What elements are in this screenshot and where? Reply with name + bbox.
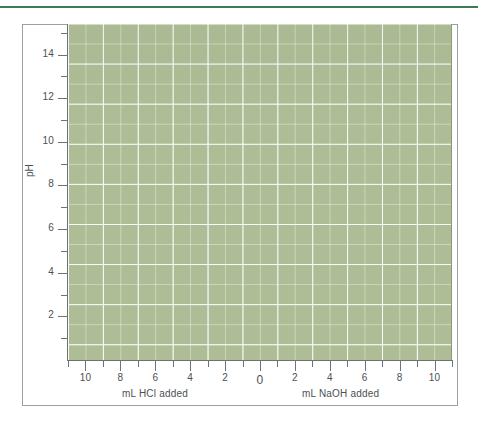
- y-axis-tick-major: [58, 55, 67, 56]
- x-axis-tick-label: 6: [350, 372, 380, 383]
- x-axis-tick-minor: [347, 361, 348, 367]
- x-axis-tick-major: [120, 361, 121, 371]
- x-axis-tick-label: 2: [280, 372, 310, 383]
- x-axis-tick-minor: [103, 361, 104, 367]
- y-axis-tick-major: [58, 316, 67, 317]
- x-axis-tick-label: 4: [315, 372, 345, 383]
- x-axis-tick-major: [225, 361, 226, 371]
- y-axis-tick-minor: [61, 295, 67, 296]
- y-axis-title: pH: [24, 164, 35, 177]
- y-axis-tick-major: [58, 98, 67, 99]
- y-axis-tick-minor: [61, 120, 67, 121]
- y-axis-tick-minor: [61, 207, 67, 208]
- y-axis-tick-minor: [61, 33, 67, 34]
- x-axis-tick-minor: [452, 361, 453, 367]
- x-axis-tick-label: 6: [140, 372, 170, 383]
- x-axis-tick-major: [295, 361, 296, 371]
- x-axis-tick-major: [330, 361, 331, 371]
- x-axis-tick-minor: [208, 361, 209, 367]
- titration-graph-figure: 2468101214 1086420246810 pH mL HCl added…: [0, 0, 478, 426]
- y-axis-tick-minor: [61, 251, 67, 252]
- x-axis-tick-minor: [312, 361, 313, 367]
- plot-paper-texture: [68, 24, 451, 360]
- y-axis-tick-label: 14: [20, 48, 54, 59]
- x-axis-tick-major: [85, 361, 86, 371]
- x-axis-tick-major: [190, 361, 191, 371]
- x-axis-tick-major: [260, 361, 261, 371]
- x-axis-tick-minor: [68, 361, 69, 367]
- x-axis-tick-minor: [243, 361, 244, 367]
- x-axis-tick-minor: [173, 361, 174, 367]
- plot-grid-area[interactable]: [68, 24, 452, 360]
- y-axis-spine: [67, 24, 68, 361]
- y-axis-tick-label: 6: [20, 222, 54, 233]
- y-axis-tick-major: [58, 142, 67, 143]
- y-axis-tick-label: 12: [20, 91, 54, 102]
- y-axis-tick-minor: [61, 76, 67, 77]
- x-axis-tick-label: 8: [385, 372, 415, 383]
- y-axis-tick-minor: [61, 164, 67, 165]
- y-axis-tick-label: 4: [20, 266, 54, 277]
- y-axis-tick-label: 8: [20, 178, 54, 189]
- x-axis-title-left: mL HCl added: [122, 388, 188, 399]
- y-axis-tick-label: 10: [20, 135, 54, 146]
- x-axis-tick-label: 4: [175, 372, 205, 383]
- x-axis-tick-major: [155, 361, 156, 371]
- y-axis-tick-major: [58, 273, 67, 274]
- x-axis-tick-minor: [138, 361, 139, 367]
- x-axis-tick-minor: [417, 361, 418, 367]
- x-axis-tick-minor: [382, 361, 383, 367]
- x-axis-tick-label: 0: [245, 373, 275, 387]
- x-axis-tick-major: [365, 361, 366, 371]
- header-rule: [0, 6, 478, 8]
- y-axis-tick-major: [58, 185, 67, 186]
- x-axis-tick-label: 10: [420, 372, 450, 383]
- y-axis-tick-label: 2: [20, 309, 54, 320]
- x-axis-tick-major: [400, 361, 401, 371]
- x-axis-title-right: mL NaOH added: [302, 388, 379, 399]
- x-axis-tick-label: 10: [70, 372, 100, 383]
- y-axis-tick-labels: 2468101214: [18, 0, 54, 426]
- x-axis-tick-major: [435, 361, 436, 371]
- x-axis-tick-label: 2: [210, 372, 240, 383]
- y-axis-tick-minor: [61, 338, 67, 339]
- x-axis-tick-label: 8: [105, 372, 135, 383]
- x-axis-tick-minor: [277, 361, 278, 367]
- y-axis-tick-major: [58, 229, 67, 230]
